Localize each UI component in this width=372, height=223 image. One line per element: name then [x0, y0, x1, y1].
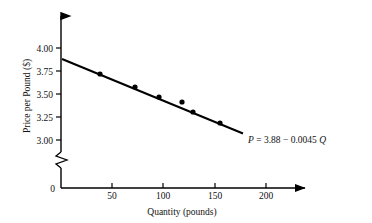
y-axis-break-icon: [56, 152, 67, 168]
y-axis-title: Price per Pound ($): [22, 59, 33, 133]
chart-figure: 4.00 3.75 3.50 3.25 3.00 0 50 100 150 20…: [0, 0, 372, 223]
scatter-plot-svg: 4.00 3.75 3.50 3.25 3.00 0 50 100 150 20…: [0, 0, 372, 223]
data-point: [97, 71, 102, 76]
y-axis: [56, 16, 67, 188]
y-tick-label-375: 3.75: [36, 67, 53, 77]
x-axis-title: Quantity (pounds): [147, 207, 216, 218]
regression-line: [62, 59, 243, 134]
regression-equation-label: P = 3.88 − 0.0045 Q: [247, 135, 326, 145]
equation-q-symbol: Q: [317, 135, 326, 145]
y-tick-label-zero: 0: [50, 184, 55, 194]
y-tick-label-400: 4.00: [36, 44, 53, 54]
data-point: [132, 84, 137, 89]
equation-slope: 0.0045: [291, 135, 317, 145]
x-tick-label-50: 50: [107, 191, 117, 201]
equation-minus: −: [281, 135, 291, 145]
data-point: [156, 94, 161, 99]
y-tick-label-350: 3.50: [36, 90, 53, 100]
x-tick-label-150: 150: [208, 191, 223, 201]
data-point: [179, 99, 184, 104]
y-tick-marks: [56, 48, 61, 140]
x-tick-marks: [112, 183, 266, 188]
equation-equals: =: [254, 135, 264, 145]
x-tick-label-200: 200: [259, 191, 274, 201]
data-point: [217, 120, 222, 125]
x-tick-label-100: 100: [156, 191, 171, 201]
data-point: [190, 109, 195, 114]
y-tick-label-300: 3.00: [36, 136, 53, 146]
equation-intercept: 3.88: [264, 135, 281, 145]
y-tick-label-325: 3.25: [36, 113, 53, 123]
